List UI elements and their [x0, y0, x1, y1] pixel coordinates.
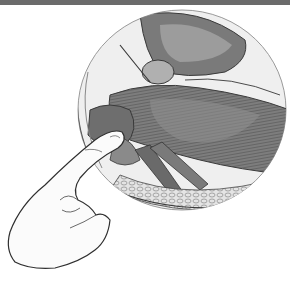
cross-section-circle: [77, 10, 290, 210]
anatomical-illustration: [0, 5, 290, 282]
examining-hand: [8, 131, 124, 268]
